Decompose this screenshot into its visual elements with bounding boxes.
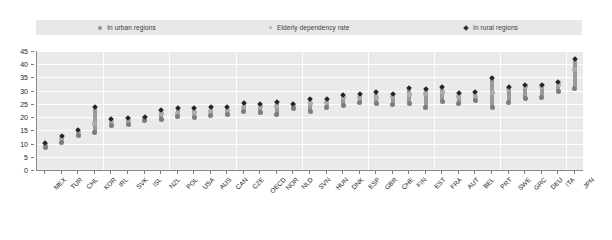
urban-region-point xyxy=(126,122,131,127)
x-tick-label-cze: CZE xyxy=(251,176,265,190)
data-point-group-nzl[interactable] xyxy=(158,51,164,170)
urban-region-point xyxy=(456,101,461,106)
gridline-vertical xyxy=(368,51,369,170)
urban-region-point xyxy=(390,102,395,107)
urban-region-point xyxy=(556,89,561,94)
x-tick-mark xyxy=(210,171,211,174)
urban-region-point xyxy=(258,110,263,115)
x-tick-mark xyxy=(375,171,376,174)
y-axis: 051015202530354045 xyxy=(0,44,34,177)
urban-region-point xyxy=(159,117,164,122)
x-tick-label-deu: DEU xyxy=(549,176,564,191)
urban-region-point xyxy=(192,115,197,120)
data-point-group-bel[interactable] xyxy=(472,51,478,170)
elderly-dependency-rate-point xyxy=(440,90,445,95)
data-point-group-tur[interactable] xyxy=(59,51,65,170)
urban-region-point xyxy=(308,109,313,114)
gridline-vertical xyxy=(434,51,435,170)
urban-region-point xyxy=(572,86,577,91)
data-point-group-fin[interactable] xyxy=(406,51,412,170)
y-tick-label: 15 xyxy=(20,127,28,134)
x-tick-mark xyxy=(408,171,409,174)
x-tick-mark xyxy=(61,171,62,174)
x-axis: MEXTURCHLKORIRLSVKISLNZLPOLUSAAUSCANCZEO… xyxy=(36,171,582,217)
y-tick-mark xyxy=(31,170,34,171)
urban-region-point xyxy=(324,105,329,110)
gridline-vertical xyxy=(500,51,501,170)
y-tick-mark xyxy=(31,91,34,92)
x-tick-label-nor: NOR xyxy=(284,176,299,191)
x-tick-mark xyxy=(342,171,343,174)
data-point-group-isl[interactable] xyxy=(142,51,148,170)
x-tick-label-esp: ESP xyxy=(366,176,380,190)
data-point-group-oecd[interactable] xyxy=(257,51,263,170)
urban-region-point xyxy=(225,112,230,117)
data-point-group-hun[interactable] xyxy=(324,51,330,170)
x-tick-mark xyxy=(77,171,78,174)
data-point-group-ita[interactable] xyxy=(555,51,561,170)
x-tick-label-hun: HUN xyxy=(334,176,349,191)
data-point-group-chl[interactable] xyxy=(75,51,81,170)
urban-region-point xyxy=(274,112,279,117)
x-tick-mark xyxy=(193,171,194,174)
data-point-group-aus[interactable] xyxy=(208,51,214,170)
x-tick-mark xyxy=(309,171,310,174)
urban-region-point xyxy=(423,105,428,110)
x-tick-label-ita: ITA xyxy=(564,176,576,188)
x-tick-mark xyxy=(474,171,475,174)
y-tick-mark xyxy=(31,104,34,105)
data-point-group-nor[interactable] xyxy=(274,51,280,170)
data-point-group-esp[interactable] xyxy=(357,51,363,170)
urban-region-point xyxy=(208,113,213,118)
data-point-group-gbr[interactable] xyxy=(373,51,379,170)
data-point-group-irl[interactable] xyxy=(108,51,114,170)
x-tick-label-usa: USA xyxy=(201,176,216,191)
data-point-group-svn[interactable] xyxy=(307,51,313,170)
y-tick-label: 40 xyxy=(20,61,28,68)
range-bar xyxy=(93,107,97,133)
urban-region-point xyxy=(92,130,97,135)
x-tick-label-est: EST xyxy=(433,176,447,190)
data-point-group-cze[interactable] xyxy=(241,51,247,170)
y-tick-mark xyxy=(31,157,34,158)
diamond-icon xyxy=(463,25,469,31)
y-tick-mark xyxy=(31,77,34,78)
x-tick-label-nld: NLD xyxy=(300,176,314,190)
data-point-group-dnk[interactable] xyxy=(340,51,346,170)
y-tick-mark xyxy=(31,144,34,145)
data-point-group-nld[interactable] xyxy=(290,51,296,170)
data-point-group-pol[interactable] xyxy=(175,51,181,170)
y-tick-mark xyxy=(31,130,34,131)
data-point-group-est[interactable] xyxy=(423,51,429,170)
urban-region-point xyxy=(357,100,362,105)
data-point-group-can[interactable] xyxy=(224,51,230,170)
x-tick-label-nzl: NZL xyxy=(168,176,182,190)
elderly-dependency-rate-point xyxy=(92,121,97,126)
data-point-group-kor[interactable] xyxy=(92,51,98,170)
urban-region-point xyxy=(175,114,180,119)
data-point-group-prt[interactable] xyxy=(489,51,495,170)
data-point-group-usa[interactable] xyxy=(191,51,197,170)
y-tick-label: 5 xyxy=(24,153,28,160)
data-point-group-jpn[interactable] xyxy=(572,51,578,170)
data-point-group-mex[interactable] xyxy=(42,51,48,170)
x-tick-mark xyxy=(243,171,244,174)
data-point-group-swe[interactable] xyxy=(506,51,512,170)
legend-label-rate: Elderly dependency rate xyxy=(277,24,349,31)
data-point-group-grc[interactable] xyxy=(522,51,528,170)
x-tick-mark xyxy=(44,171,45,174)
data-point-group-svk[interactable] xyxy=(125,51,131,170)
data-point-group-deu[interactable] xyxy=(539,51,545,170)
x-tick-mark xyxy=(574,171,575,174)
x-tick-label-tur: TUR xyxy=(69,176,84,191)
x-tick-mark xyxy=(292,171,293,174)
x-tick-mark xyxy=(94,171,95,174)
y-tick-label: 25 xyxy=(20,100,28,107)
data-point-group-aut[interactable] xyxy=(456,51,462,170)
urban-region-point xyxy=(523,96,528,101)
x-tick-mark xyxy=(259,171,260,174)
data-point-group-che[interactable] xyxy=(390,51,396,170)
x-tick-label-bel: BEL xyxy=(482,176,496,190)
data-point-group-fra[interactable] xyxy=(439,51,445,170)
elderly-dependency-rate-point xyxy=(407,92,412,97)
